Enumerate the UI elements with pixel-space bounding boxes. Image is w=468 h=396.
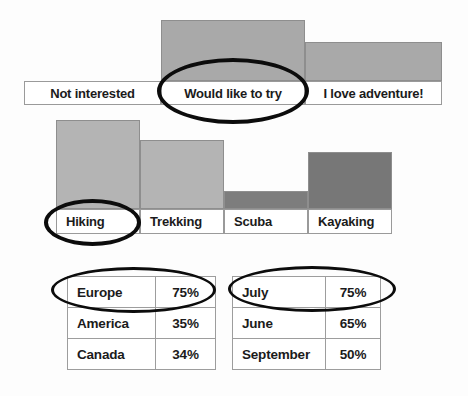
month-value-cell: 65%	[326, 308, 381, 339]
axis-label-hiking[interactable]: Hiking	[56, 209, 140, 234]
region-value-cell: 34%	[156, 339, 216, 370]
axis-label-not-interested[interactable]: Not interested	[24, 81, 161, 105]
slide-canvas: Not interested Would like to try I love …	[0, 0, 468, 396]
axis-label-i-love-adventure[interactable]: I love adventure!	[305, 81, 442, 105]
month-table: July 75% June 65% September 50%	[232, 276, 381, 370]
month-value-cell: 50%	[326, 339, 381, 370]
month-name-cell: July	[233, 277, 326, 308]
bar-hiking	[56, 120, 140, 209]
bar-trekking	[140, 140, 224, 209]
region-table: Europe 75% America 35% Canada 34%	[67, 276, 216, 370]
region-name-cell: America	[68, 308, 156, 339]
region-name-cell: Europe	[68, 277, 156, 308]
table-row[interactable]: America 35%	[68, 308, 216, 339]
month-name-cell: September	[233, 339, 326, 370]
region-value-cell: 75%	[156, 277, 216, 308]
month-value-cell: 75%	[326, 277, 381, 308]
bar-kayaking	[308, 152, 392, 209]
region-value-cell: 35%	[156, 308, 216, 339]
bar-would-like-to-try	[161, 20, 305, 81]
axis-label-trekking[interactable]: Trekking	[140, 209, 224, 234]
table-row[interactable]: Europe 75%	[68, 277, 216, 308]
table-row[interactable]: June 65%	[233, 308, 381, 339]
axis-label-kayaking[interactable]: Kayaking	[308, 209, 392, 234]
bar-scuba	[224, 191, 308, 209]
axis-label-would-like-to-try[interactable]: Would like to try	[161, 81, 305, 105]
table-row[interactable]: Canada 34%	[68, 339, 216, 370]
bar-i-love-adventure	[305, 42, 442, 81]
axis-label-scuba[interactable]: Scuba	[224, 209, 308, 234]
table-row[interactable]: July 75%	[233, 277, 381, 308]
table-row[interactable]: September 50%	[233, 339, 381, 370]
region-name-cell: Canada	[68, 339, 156, 370]
month-name-cell: June	[233, 308, 326, 339]
